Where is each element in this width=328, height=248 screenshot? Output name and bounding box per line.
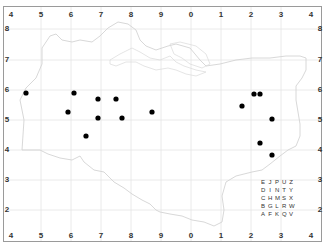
tetrad-letter: Y (289, 186, 293, 194)
tetrad-letter: G (268, 202, 272, 210)
tetrad-letter: A (261, 210, 265, 218)
bottom-axis-label: 4 (6, 232, 16, 240)
bottom-axis-label: 5 (36, 232, 46, 240)
top-axis-label: 4 (6, 11, 16, 19)
top-axis-label: 9 (156, 11, 166, 19)
top-axis-label: 8 (126, 11, 136, 19)
top-axis-label: 2 (246, 11, 256, 19)
tetrad-letter: C (261, 194, 265, 202)
tetrad-key-row: D I N T Y (261, 186, 293, 194)
left-axis-label: 3 (2, 176, 12, 184)
tetrad-key-row: A F K Q V (261, 210, 293, 218)
bottom-axis-label: 1 (216, 232, 226, 240)
bottom-axis-label: 3 (276, 232, 286, 240)
tetrad-letter: J (268, 178, 272, 186)
top-axis-label: 1 (216, 11, 226, 19)
right-axis-label: 7 (315, 56, 325, 64)
tetrad-letter: H (268, 194, 272, 202)
right-axis-label: 3 (315, 176, 325, 184)
right-axis-label: 2 (315, 206, 325, 214)
tetrad-letter: I (268, 186, 272, 194)
tetrad-letter: L (275, 202, 279, 210)
tetrad-letter: R (282, 202, 286, 210)
tetrad-letter: K (275, 210, 279, 218)
tetrad-key-row: E J P U Z (261, 178, 293, 186)
bottom-axis-label: 4 (306, 232, 316, 240)
left-axis-label: 7 (2, 56, 12, 64)
left-axis-label: 6 (2, 86, 12, 94)
tetrad-letter: Z (289, 178, 293, 186)
tetrad-letter: E (261, 178, 265, 186)
tetrad-letter: V (289, 210, 293, 218)
bottom-axis-label: 6 (66, 232, 76, 240)
tetrad-key-row: C H M S X (261, 194, 293, 202)
bottom-axis-label: 7 (96, 232, 106, 240)
top-axis-label: 7 (96, 11, 106, 19)
top-axis-label: 4 (306, 11, 316, 19)
tetrad-letter: X (289, 194, 293, 202)
bottom-axis-label: 0 (186, 232, 196, 240)
left-axis-label: 8 (2, 25, 12, 33)
tetrad-letter: W (289, 202, 293, 210)
tetrad-letter: Q (282, 210, 286, 218)
tetrad-letter: F (268, 210, 272, 218)
bottom-axis-label: 8 (126, 232, 136, 240)
bottom-axis-label: 9 (156, 232, 166, 240)
tetrad-letter: N (275, 186, 279, 194)
tetrad-letter: M (275, 194, 279, 202)
tetrad-letter: U (282, 178, 286, 186)
tetrad-letter: D (261, 186, 265, 194)
top-axis-label: 0 (186, 11, 196, 19)
top-axis-label: 5 (36, 11, 46, 19)
left-axis-label: 4 (2, 146, 12, 154)
right-axis-label: 6 (315, 86, 325, 94)
right-axis-label: 4 (315, 146, 325, 154)
bottom-axis-label: 2 (246, 232, 256, 240)
tetrad-key-row: B G L R W (261, 202, 293, 210)
right-axis-label: 5 (315, 116, 325, 124)
tetrad-letter: B (261, 202, 265, 210)
left-axis-label: 5 (2, 116, 12, 124)
tetrad-letter: S (282, 194, 286, 202)
left-axis-label: 2 (2, 206, 12, 214)
tetrad-key: E J P U Z D I N T Y C H M S X B G L R W … (261, 178, 293, 218)
top-axis-label: 6 (66, 11, 76, 19)
top-axis-label: 3 (276, 11, 286, 19)
tetrad-letter: P (275, 178, 279, 186)
tetrad-letter: T (282, 186, 286, 194)
right-axis-label: 8 (315, 25, 325, 33)
